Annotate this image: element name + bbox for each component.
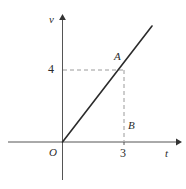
graph-canvas (0, 0, 186, 189)
velocity-time-graph-figure: v t O A B 4 3 (0, 0, 186, 189)
t-axis-label: t (165, 148, 168, 159)
velocity-line (63, 26, 153, 142)
origin-label: O (49, 147, 57, 158)
point-label-a: A (114, 51, 121, 62)
t-axis-arrowhead (176, 139, 182, 146)
v-axis-label: v (49, 14, 54, 25)
x-tick-label-3: 3 (120, 147, 126, 159)
v-axis-arrowhead (59, 14, 66, 20)
y-tick-label-4: 4 (48, 63, 54, 75)
point-label-b: B (128, 120, 135, 131)
